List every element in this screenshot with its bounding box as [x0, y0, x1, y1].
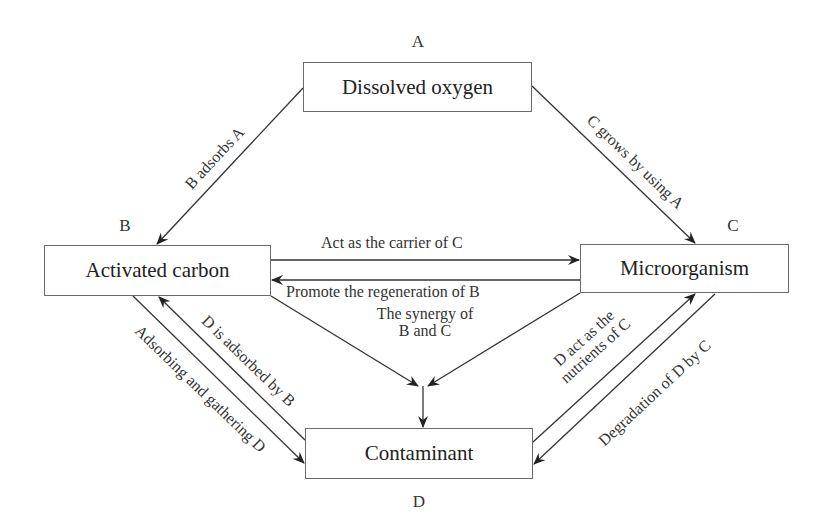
node-b-letter: B — [119, 216, 130, 236]
arrow-a-to-b — [157, 88, 303, 244]
arrow-a-to-c — [532, 86, 695, 243]
node-d-letter: D — [413, 492, 425, 512]
node-microorganism: Microorganism — [580, 244, 789, 293]
node-dissolved-oxygen: Dissolved oxygen — [303, 62, 532, 112]
edge-label-synergy: The synergy of B and C — [365, 306, 485, 340]
edge-label-c-to-b: Promote the regeneration of B — [286, 284, 480, 301]
synergy-line-1: The synergy of — [365, 306, 485, 323]
synergy-line-2: B and C — [365, 323, 485, 340]
node-c-letter: C — [727, 216, 738, 236]
node-a-label: Dissolved oxygen — [342, 75, 493, 100]
node-c-label: Microorganism — [620, 256, 749, 281]
node-activated-carbon: Activated carbon — [44, 245, 271, 296]
node-b-label: Activated carbon — [85, 258, 229, 283]
node-d-label: Contaminant — [365, 441, 474, 466]
edge-label-b-to-c: Act as the carrier of C — [321, 235, 463, 252]
node-a-letter: A — [412, 32, 424, 52]
node-contaminant: Contaminant — [305, 428, 533, 479]
